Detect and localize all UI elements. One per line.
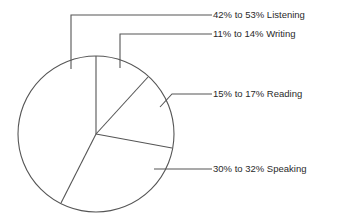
label-listening: 42% to 53% Listening: [213, 9, 305, 21]
slice-divider-reading-speaking: [96, 134, 172, 148]
leader-line-reading: [160, 94, 212, 107]
label-writing: 11% to 14% Writing: [213, 28, 296, 40]
label-speaking: 30% to 32% Speaking: [213, 163, 306, 175]
slice-divider-speaking-listening: [61, 134, 96, 203]
leader-line-writing: [120, 34, 212, 68]
label-reading: 15% to 17% Reading: [213, 88, 302, 100]
slice-divider-writing-reading: [96, 77, 148, 134]
leader-line-listening: [71, 15, 212, 69]
